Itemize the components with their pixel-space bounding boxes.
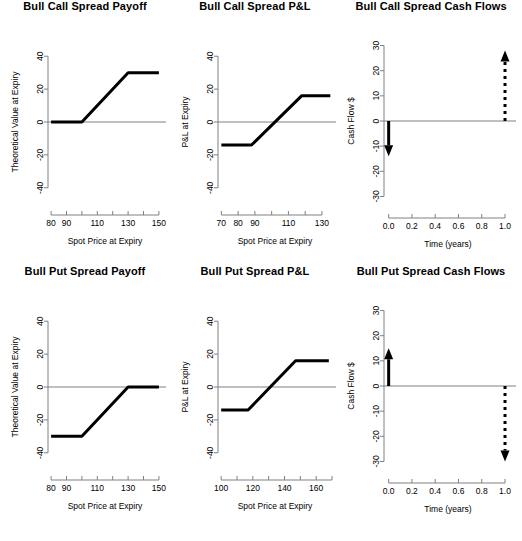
x-tick-label: 0.8	[476, 486, 488, 496]
y-tick-label: 30	[371, 306, 381, 316]
payoff-line	[221, 361, 329, 410]
chart-grid: Bull Call Spread Payoff -40-2002040Theor…	[0, 0, 522, 541]
panel-bull-put-cashflows: Bull Put Spread Cash Flows -30-20-100102…	[340, 265, 522, 541]
y-tick-label: -10	[371, 405, 381, 418]
y-tick-label: 0	[371, 383, 381, 388]
y-axis-label: Theoretical Value at Expiry	[10, 336, 20, 438]
x-tick-label: 0.8	[476, 221, 488, 231]
x-tick-label: 110	[91, 218, 105, 228]
y-tick-label: 40	[35, 51, 45, 61]
x-tick-label: 70	[217, 218, 227, 228]
x-tick-label: 90	[250, 218, 260, 228]
x-tick-label: 0.2	[406, 486, 418, 496]
y-tick-label: 30	[371, 41, 381, 51]
panel-bull-put-pl: Bull Put Spread P&L -40-2002040P&L at Ex…	[170, 265, 340, 541]
x-tick-label: 130	[121, 218, 135, 228]
x-axis-label: Spot Price at Expiry	[238, 236, 313, 246]
premium-received-arrow-head	[384, 348, 393, 359]
payoff-line	[51, 73, 159, 122]
x-tick-label: 0.6	[453, 486, 465, 496]
y-tick-label: -30	[371, 190, 381, 203]
plot-area: -40-2002040P&L at Expiry708090110130Spot…	[170, 0, 340, 265]
x-tick-label: 120	[246, 483, 260, 493]
y-tick-label: -40	[205, 446, 215, 459]
x-tick-label: 80	[46, 218, 56, 228]
y-tick-label: 0	[205, 119, 215, 124]
y-tick-label: -20	[205, 413, 215, 426]
x-tick-label: 1.0	[499, 221, 511, 231]
panel-title: Bull Call Spread Cash Flows	[340, 0, 522, 12]
x-tick-label: 90	[62, 483, 72, 493]
x-tick-label: 80	[46, 483, 56, 493]
x-tick-label: 0.0	[383, 486, 395, 496]
y-tick-label: 20	[35, 84, 45, 94]
x-tick-label: 130	[121, 483, 135, 493]
plot-area: -30-20-100102030Cash Flow $0.00.20.40.60…	[340, 265, 522, 541]
y-axis-label: P&L at Expiry	[180, 361, 190, 413]
y-tick-label: 40	[35, 316, 45, 326]
x-tick-label: 0.4	[429, 486, 441, 496]
x-tick-label: 130	[315, 218, 329, 228]
y-tick-label: 0	[35, 119, 45, 124]
x-tick-label: 150	[152, 218, 166, 228]
x-tick-label: 150	[152, 483, 166, 493]
x-axis-label: Time (years)	[424, 239, 472, 249]
x-tick-label: 80	[233, 218, 243, 228]
y-axis-label: P&L at Expiry	[180, 96, 190, 148]
panel-bull-call-cashflows: Bull Call Spread Cash Flows -30-20-10010…	[340, 0, 522, 265]
y-tick-label: 20	[35, 349, 45, 359]
y-tick-label: -40	[35, 446, 45, 459]
panel-bull-put-payoff: Bull Put Spread Payoff -40-2002040Theore…	[0, 265, 170, 541]
x-tick-label: 0.0	[383, 221, 395, 231]
x-tick-label: 1.0	[499, 486, 511, 496]
y-tick-label: -20	[35, 413, 45, 426]
x-tick-label: 0.4	[429, 221, 441, 231]
premium-paid-arrow-head	[384, 145, 393, 156]
panel-bull-call-pl: Bull Call Spread P&L -40-2002040P&L at E…	[170, 0, 340, 265]
x-tick-label: 160	[309, 483, 323, 493]
y-tick-label: -30	[371, 455, 381, 468]
panel-title: Bull Call Spread Payoff	[0, 0, 170, 12]
panel-bull-call-payoff: Bull Call Spread Payoff -40-2002040Theor…	[0, 0, 170, 265]
x-axis-label: Spot Price at Expiry	[68, 236, 143, 246]
x-tick-label: 0.6	[453, 221, 465, 231]
y-tick-label: 0	[35, 384, 45, 389]
panel-title: Bull Put Spread Payoff	[0, 265, 170, 277]
y-tick-label: 20	[205, 84, 215, 94]
y-tick-label: -20	[371, 165, 381, 178]
y-tick-label: -10	[371, 140, 381, 153]
expected-payoff-arrow-head	[501, 51, 510, 62]
y-tick-label: 20	[205, 349, 215, 359]
payoff-line	[51, 387, 159, 436]
x-tick-label: 90	[62, 218, 72, 228]
y-tick-label: 20	[371, 66, 381, 76]
y-tick-label: 0	[205, 384, 215, 389]
panel-title: Bull Put Spread P&L	[170, 265, 340, 277]
y-tick-label: 0	[371, 118, 381, 123]
y-tick-label: 10	[371, 91, 381, 101]
x-axis-label: Spot Price at Expiry	[238, 501, 313, 511]
panel-title: Bull Call Spread P&L	[170, 0, 340, 12]
x-tick-label: 100	[214, 483, 228, 493]
expected-payout-arrow-head	[501, 450, 510, 461]
x-tick-label: 110	[91, 483, 105, 493]
x-axis-label: Spot Price at Expiry	[68, 501, 143, 511]
y-axis-label: Theoretical Value at Expiry	[10, 71, 20, 173]
y-tick-label: -40	[205, 181, 215, 194]
y-tick-label: 10	[371, 356, 381, 366]
y-tick-label: -20	[371, 430, 381, 443]
plot-area: -30-20-100102030Cash Flow $0.00.20.40.60…	[340, 0, 522, 265]
x-tick-label: 0.2	[406, 221, 418, 231]
x-tick-label: 110	[282, 218, 296, 228]
payoff-line	[221, 96, 330, 145]
panel-title: Bull Put Spread Cash Flows	[340, 265, 522, 277]
x-tick-label: 140	[277, 483, 291, 493]
y-tick-label: 20	[371, 331, 381, 341]
y-tick-label: -20	[205, 148, 215, 161]
y-axis-label: Cash Flow $	[346, 97, 356, 145]
x-axis-label: Time (years)	[424, 504, 472, 514]
y-axis-label: Cash Flow $	[346, 362, 356, 410]
plot-area: -40-2002040P&L at Expiry100120140160Spot…	[170, 265, 340, 541]
plot-area: -40-2002040Theoretical Value at Expiry80…	[0, 265, 170, 541]
y-tick-label: -40	[35, 181, 45, 194]
